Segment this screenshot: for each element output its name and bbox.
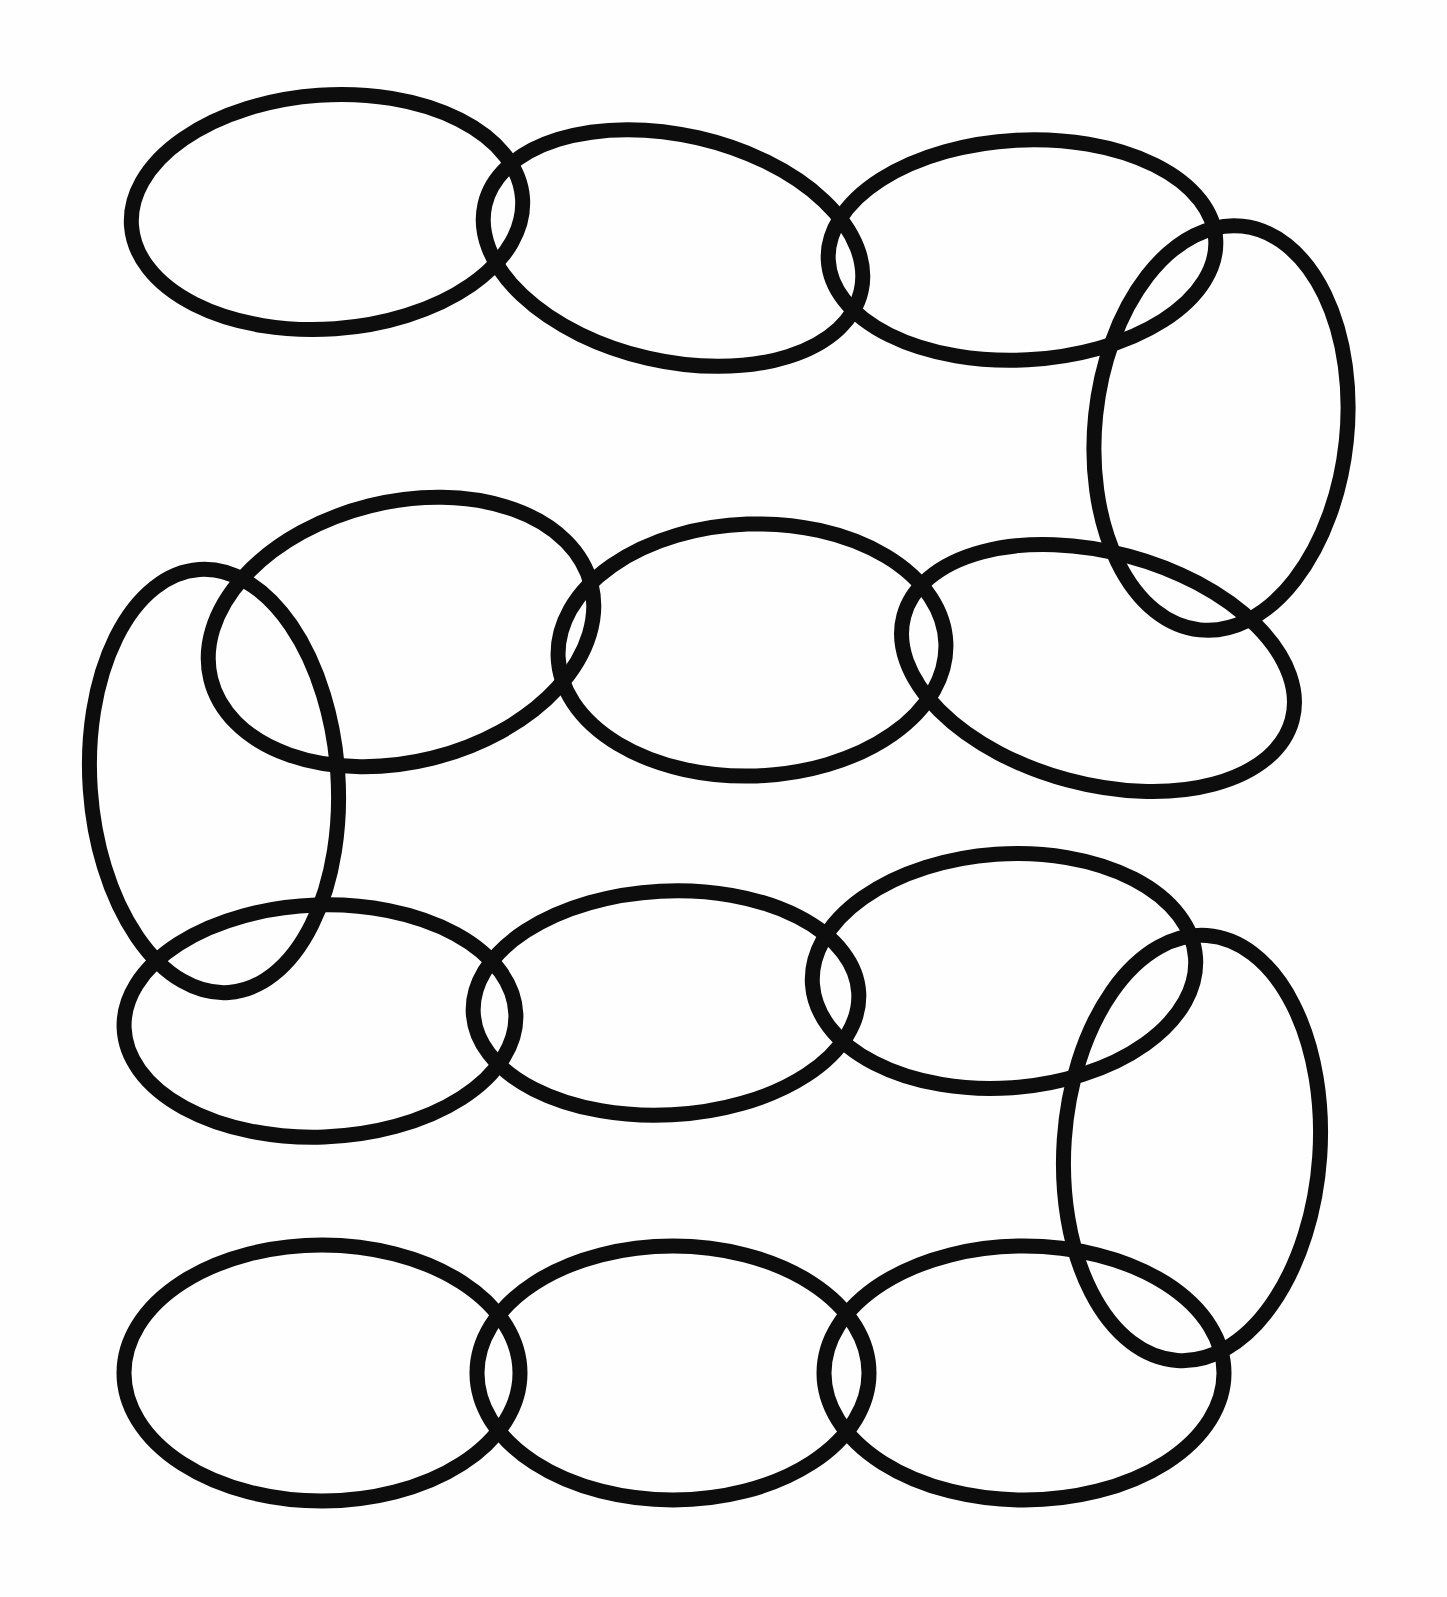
artwork-canvas <box>0 0 1447 1597</box>
chain-of-ellipses-diagram <box>0 0 1447 1597</box>
